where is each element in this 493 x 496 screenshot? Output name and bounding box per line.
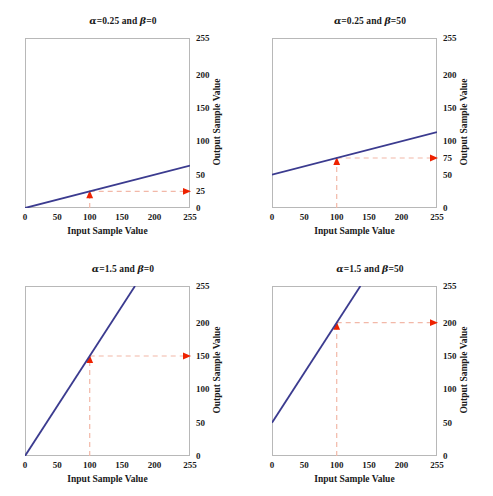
xtick-label: 0	[270, 212, 275, 222]
ytick-label: 50	[443, 418, 452, 428]
ytick-label: 255	[443, 281, 457, 291]
xtick-label: 200	[395, 460, 409, 470]
data-line-series-0	[25, 166, 190, 209]
xtick-label: 200	[148, 460, 162, 470]
data-line-series-0	[272, 286, 360, 423]
ytick-label: 200	[196, 318, 210, 328]
annotation-right-arrowhead	[183, 188, 191, 195]
xtick-label: 255	[183, 212, 197, 222]
xtick-label: 150	[362, 212, 376, 222]
ytick-label: 100	[196, 384, 210, 394]
panel-top-left: α=0.25 and β=005010015020025502550100150…	[0, 0, 246, 248]
ytick-label: 255	[196, 281, 210, 291]
annotation-right-arrowhead	[430, 319, 438, 326]
ytick-label: 0	[443, 203, 448, 213]
data-line-series-0	[272, 132, 437, 175]
ytick-label: 0	[196, 451, 201, 461]
ytick-label: 50	[196, 170, 205, 180]
ytick-label: 0	[196, 203, 201, 213]
xtick-label: 100	[330, 212, 344, 222]
ytick-label: 150	[196, 351, 210, 361]
yaxis-title: Output Sample Value	[212, 67, 222, 177]
ytick-label: 100	[443, 384, 457, 394]
ytick-label: 150	[443, 351, 457, 361]
xtick-label: 255	[430, 460, 444, 470]
ytick-label: 255	[196, 33, 210, 43]
ytick-label: 50	[196, 418, 205, 428]
xtick-label: 200	[395, 212, 409, 222]
ytick-label: 200	[196, 70, 210, 80]
yaxis-title: Output Sample Value	[459, 315, 469, 425]
xtick-label: 0	[270, 460, 275, 470]
ytick-label: 200	[443, 70, 457, 80]
xtick-label: 50	[53, 212, 62, 222]
panel-bottom-right: α=1.5 and β=5005010015020025505010015020…	[247, 248, 493, 496]
ytick-label: 200	[443, 318, 457, 328]
xtick-label: 0	[23, 460, 28, 470]
yaxis-title: Output Sample Value	[459, 67, 469, 177]
ytick-label: 100	[443, 136, 457, 146]
ytick-label: 75	[443, 153, 452, 163]
ytick-label: 0	[443, 451, 448, 461]
figure-transfer-functions: α=0.25 and β=005010015020025502550100150…	[0, 0, 493, 496]
data-line-series-0	[25, 286, 135, 456]
ytick-label: 100	[196, 136, 210, 146]
panel-bottom-left: α=1.5 and β=0050100150200255050100150200…	[0, 248, 246, 496]
xaxis-title: Input Sample Value	[0, 474, 231, 484]
xtick-label: 0	[23, 212, 28, 222]
xtick-label: 100	[83, 460, 97, 470]
panel-top-right: α=0.25 and β=500501001502002550507510015…	[247, 0, 493, 248]
xtick-label: 255	[183, 460, 197, 470]
xtick-label: 50	[300, 212, 309, 222]
yaxis-title: Output Sample Value	[212, 315, 222, 425]
annotation-right-arrowhead	[430, 155, 438, 162]
ytick-label: 50	[443, 170, 452, 180]
ytick-label: 150	[443, 103, 457, 113]
xtick-label: 100	[330, 460, 344, 470]
xaxis-title: Input Sample Value	[232, 474, 478, 484]
xtick-label: 150	[115, 460, 129, 470]
xaxis-title: Input Sample Value	[0, 226, 231, 236]
xtick-label: 150	[362, 460, 376, 470]
annotation-right-arrowhead	[183, 353, 191, 360]
ytick-label: 25	[196, 186, 205, 196]
xtick-label: 50	[53, 460, 62, 470]
xtick-label: 150	[115, 212, 129, 222]
xtick-label: 100	[83, 212, 97, 222]
xtick-label: 50	[300, 460, 309, 470]
xaxis-title: Input Sample Value	[232, 226, 478, 236]
ytick-label: 255	[443, 33, 457, 43]
xtick-label: 200	[148, 212, 162, 222]
ytick-label: 150	[196, 103, 210, 113]
xtick-label: 255	[430, 212, 444, 222]
